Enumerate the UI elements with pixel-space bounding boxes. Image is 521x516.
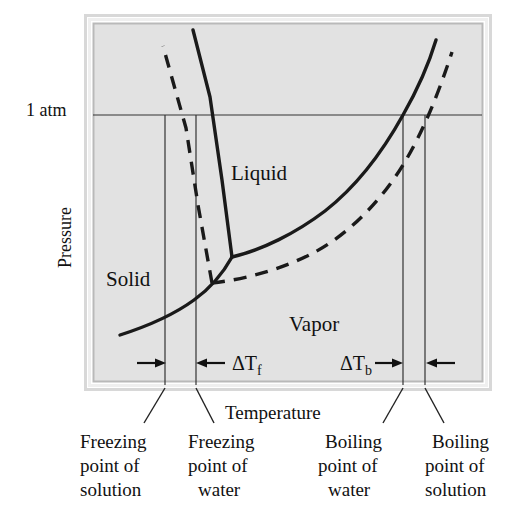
callout-boiling-point-of-water: Boiling point of water	[318, 431, 383, 500]
callout-freezing-point-of-water: Freezing point of water	[188, 431, 255, 500]
callout-fpw-line3: water	[198, 479, 241, 500]
delta-tf-symbol: ΔT	[232, 352, 257, 374]
callout-fps-line2: point of	[80, 455, 140, 476]
callout-fps-line3: solution	[80, 479, 142, 500]
phase-diagram-figure: ΔTf ΔTb Solid Liquid Vapor 1 atm Pressur…	[0, 0, 521, 516]
leader-freezing-point-of-water	[196, 388, 214, 423]
leader-boiling-point-of-solution	[425, 388, 444, 423]
delta-tb-subscript: b	[365, 363, 372, 378]
callout-bps-line1: Boiling	[432, 431, 490, 452]
plot-frame	[86, 16, 491, 390]
callout-bpw-line3: water	[328, 479, 371, 500]
callout-fpw-line2: point of	[188, 455, 248, 476]
callout-bpw-line1: Boiling	[325, 431, 383, 452]
pressure-tick-label: 1 atm	[26, 100, 67, 120]
callout-fpw-line1: Freezing	[188, 431, 255, 452]
callout-freezing-point-of-solution: Freezing point of solution	[80, 431, 147, 500]
callout-fps-line1: Freezing	[80, 431, 147, 452]
y-axis-label: Pressure	[55, 207, 75, 268]
callout-boiling-point-of-solution: Boiling point of solution	[425, 431, 490, 500]
callout-bps-line2: point of	[425, 455, 485, 476]
delta-tf-subscript: f	[257, 363, 262, 378]
leader-freezing-point-of-solution	[144, 388, 165, 423]
region-label-vapor: Vapor	[289, 312, 339, 336]
callout-bps-line3: solution	[425, 479, 487, 500]
region-label-liquid: Liquid	[231, 161, 287, 185]
callout-bpw-line2: point of	[318, 455, 378, 476]
x-axis-label: Temperature	[225, 402, 321, 423]
delta-tb-symbol: ΔT	[340, 352, 365, 374]
phase-diagram-canvas: ΔTf ΔTb Solid Liquid Vapor 1 atm Pressur…	[0, 0, 521, 516]
leader-boiling-point-of-water	[383, 388, 403, 423]
region-label-solid: Solid	[106, 267, 151, 291]
